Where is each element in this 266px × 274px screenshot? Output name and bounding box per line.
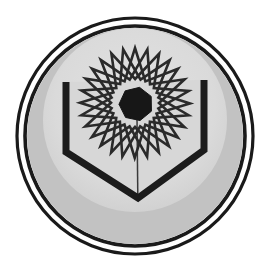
emblem-canvas bbox=[0, 0, 266, 274]
disc-contents bbox=[43, 28, 227, 212]
emblem-artwork bbox=[0, 0, 266, 274]
